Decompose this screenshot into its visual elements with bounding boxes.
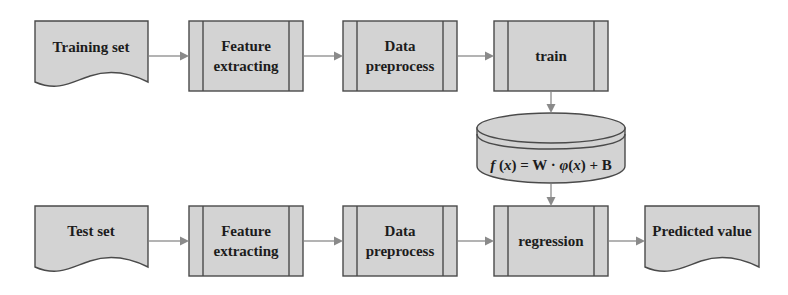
flowchart: Training set Feature extracting Data pre… (0, 0, 788, 295)
arrowhead-icon (636, 237, 645, 246)
node-training-set: Training set (35, 21, 148, 86)
node-data-preprocess-2: Data preprocess (343, 206, 457, 276)
arrowhead-icon (180, 52, 189, 61)
node-feature-extracting-2: Feature extracting (189, 206, 303, 276)
node-label-line2: preprocess (366, 243, 435, 259)
arrowhead-icon (485, 237, 494, 246)
node-label: Predicted value (652, 223, 752, 239)
node-label-line2: extracting (214, 243, 279, 259)
node-train: train (494, 21, 608, 91)
node-predicted-value: Predicted value (645, 206, 759, 271)
node-label: regression (518, 233, 584, 249)
arrowhead-icon (334, 52, 343, 61)
node-feature-extracting-1: Feature extracting (189, 21, 303, 91)
node-regression: regression (494, 206, 608, 276)
node-label: train (535, 48, 567, 64)
node-test-set: Test set (35, 206, 148, 271)
node-model-store: f (x) = W · φ(x) + B f(x) = W · φ(x) + B (477, 113, 625, 183)
node-label-line1: Feature (221, 38, 271, 54)
process-shape (343, 21, 457, 91)
arrowhead-icon (334, 237, 343, 246)
node-label: Training set (53, 39, 130, 55)
process-shape (343, 206, 457, 276)
arrowhead-icon (547, 104, 556, 113)
node-label: Test set (67, 223, 114, 239)
arrowhead-icon (485, 52, 494, 61)
node-data-preprocess-1: Data preprocess (343, 21, 457, 91)
arrowhead-icon (180, 237, 189, 246)
node-label-line1: Data (385, 223, 416, 239)
node-label-line2: extracting (214, 58, 279, 74)
database-top (477, 113, 625, 143)
node-label-line2: preprocess (366, 58, 435, 74)
node-label-line1: Feature (221, 223, 271, 239)
model-formula: f (x) = W · φ(x) + B (490, 157, 612, 174)
process-shape (189, 206, 303, 276)
arrowhead-icon (547, 197, 556, 206)
node-label-line1: Data (385, 38, 416, 54)
process-shape (189, 21, 303, 91)
